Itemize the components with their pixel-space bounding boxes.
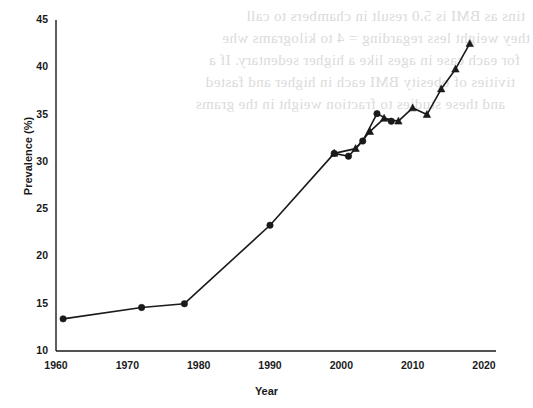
y-tick-label: 40 bbox=[18, 60, 48, 72]
y-tick-label: 25 bbox=[18, 202, 48, 214]
x-tick-label: 1990 bbox=[247, 359, 293, 371]
data-point-circle bbox=[181, 301, 187, 307]
y-tick-label: 30 bbox=[18, 155, 48, 167]
y-tick-label: 35 bbox=[18, 108, 48, 120]
x-tick-label: 2010 bbox=[390, 359, 436, 371]
y-tick-label: 45 bbox=[18, 13, 48, 25]
data-point-circle bbox=[60, 316, 66, 322]
series-line bbox=[63, 114, 391, 319]
data-point-circle bbox=[374, 110, 380, 116]
data-point-triangle bbox=[466, 40, 473, 47]
series-line bbox=[334, 44, 470, 154]
plot-area bbox=[0, 0, 533, 408]
data-point-circle bbox=[138, 304, 144, 310]
axis-lines bbox=[56, 20, 496, 351]
x-tick-label: 1980 bbox=[176, 359, 222, 371]
x-tick-label: 2000 bbox=[318, 359, 364, 371]
y-tick-label: 10 bbox=[18, 344, 48, 356]
x-tick-label: 1970 bbox=[104, 359, 150, 371]
data-point-circle bbox=[267, 222, 273, 228]
x-axis-title: Year bbox=[0, 385, 533, 397]
y-tick-label: 20 bbox=[18, 249, 48, 261]
data-point-triangle bbox=[409, 104, 416, 111]
series-circle bbox=[60, 110, 395, 322]
data-series-group bbox=[60, 40, 473, 322]
x-tick-label: 2020 bbox=[461, 359, 507, 371]
prevalence-line-chart: tins as BMI is 5.0 result in chambers to… bbox=[0, 0, 533, 408]
series-triangle bbox=[331, 40, 474, 157]
x-tick-label: 1960 bbox=[33, 359, 79, 371]
y-tick-label: 15 bbox=[18, 297, 48, 309]
data-point-circle bbox=[345, 153, 351, 159]
